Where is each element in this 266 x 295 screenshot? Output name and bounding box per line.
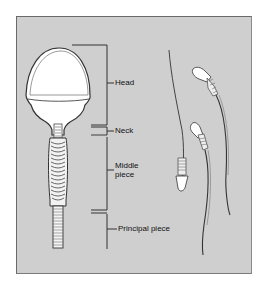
label-middle-piece-line2: piece — [115, 171, 134, 179]
label-principal-piece: Principal piece — [118, 225, 170, 233]
large-sperm — [26, 48, 90, 248]
label-middle-piece-line1: Middle — [115, 162, 139, 170]
sperm-diagram — [0, 0, 266, 295]
label-neck: Neck — [115, 127, 133, 135]
small-sperm-left — [169, 50, 188, 191]
label-head: Head — [115, 79, 134, 87]
small-sperm-bottom — [190, 123, 210, 255]
small-sperm-top — [192, 67, 230, 215]
